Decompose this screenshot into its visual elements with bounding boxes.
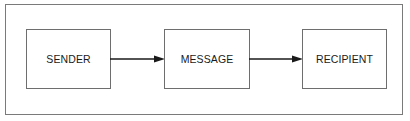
sender-label: SENDER xyxy=(46,53,90,65)
recipient-node: RECIPIENT xyxy=(302,29,387,89)
message-node: MESSAGE xyxy=(164,29,250,89)
arrow-sender-to-message-icon xyxy=(110,54,166,64)
sender-node: SENDER xyxy=(26,29,111,89)
recipient-label: RECIPIENT xyxy=(316,53,373,65)
arrow-message-to-recipient-icon xyxy=(249,54,304,64)
message-label: MESSAGE xyxy=(181,53,234,65)
